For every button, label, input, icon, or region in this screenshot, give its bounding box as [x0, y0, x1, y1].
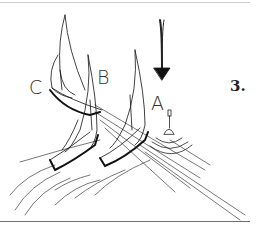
figure-number: 3.	[230, 79, 246, 94]
boat-label-c: C	[29, 78, 42, 97]
bottom-divider	[0, 221, 250, 222]
boat-b	[50, 55, 98, 170]
boat-label-a: A	[151, 94, 164, 113]
diagram-figure: C B A 3.	[0, 0, 260, 225]
boat-c	[50, 15, 102, 115]
sailing-illustration	[0, 0, 260, 225]
boat-label-b: B	[97, 68, 109, 87]
wake-lines	[10, 105, 245, 220]
buoy-mark-icon	[150, 110, 192, 154]
wind-arrow-icon	[154, 20, 170, 80]
